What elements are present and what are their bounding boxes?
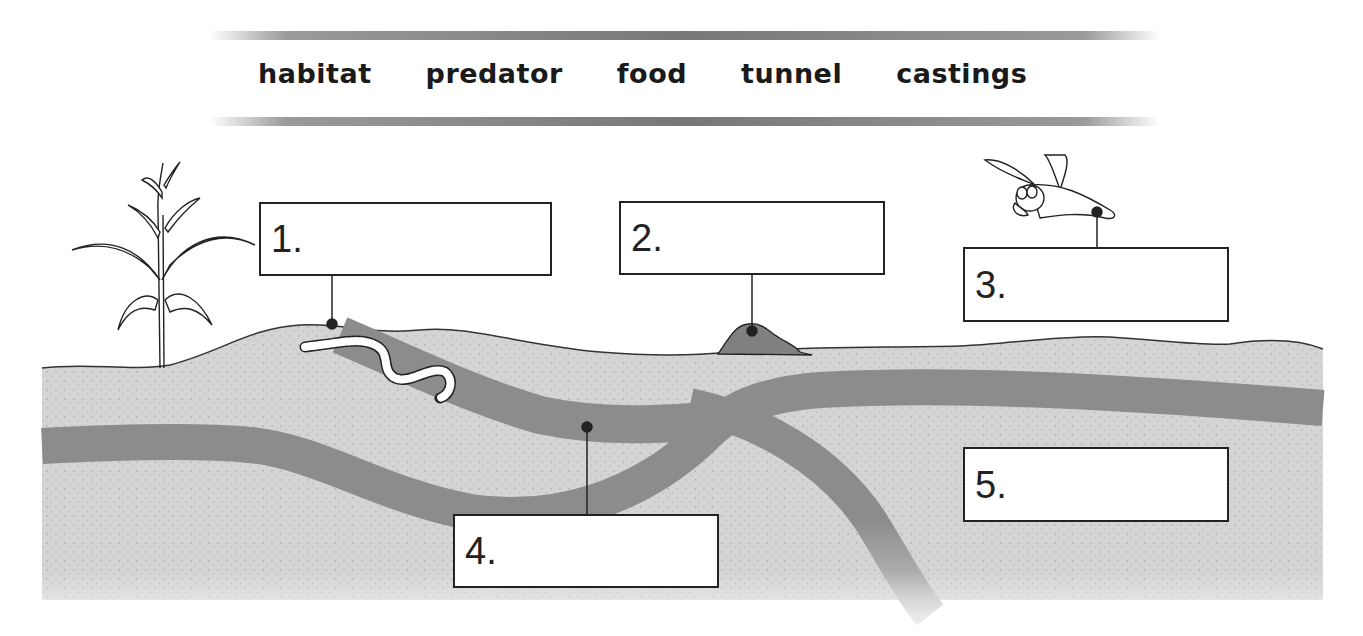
label-number-3: 3. bbox=[975, 263, 1007, 306]
label-box-5[interactable]: 5. bbox=[963, 447, 1229, 522]
label-number-1: 1. bbox=[271, 218, 303, 261]
label-number-5: 5. bbox=[975, 463, 1007, 506]
label-box-2[interactable]: 2. bbox=[619, 201, 885, 275]
label-box-1[interactable]: 1. bbox=[259, 202, 552, 276]
plant-icon bbox=[72, 162, 255, 368]
label-number-2: 2. bbox=[631, 217, 663, 260]
label-number-4: 4. bbox=[465, 530, 497, 573]
label-box-4[interactable]: 4. bbox=[453, 514, 719, 588]
castings-mound-icon bbox=[718, 324, 812, 355]
label-box-3[interactable]: 3. bbox=[963, 247, 1229, 322]
